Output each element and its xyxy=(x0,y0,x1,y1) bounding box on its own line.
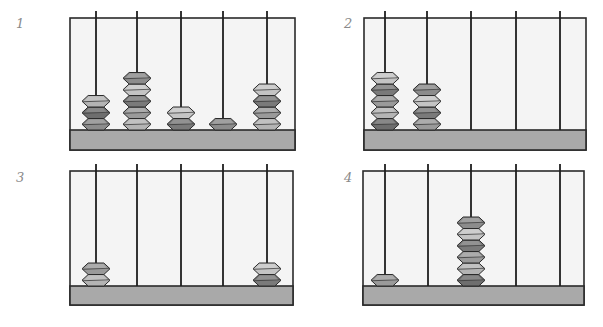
bead-highlight xyxy=(256,108,278,112)
abacus-base xyxy=(363,286,584,305)
bead-highlight xyxy=(374,120,396,124)
bead-highlight xyxy=(374,74,396,78)
bead-highlight xyxy=(256,97,278,101)
bead-highlight xyxy=(256,276,278,280)
bead-highlight xyxy=(170,108,192,112)
bead-highlight xyxy=(126,74,148,78)
bead-highlight xyxy=(85,120,107,124)
bead-highlight xyxy=(460,264,482,268)
bead-highlight xyxy=(460,218,482,222)
bead-highlight xyxy=(256,120,278,124)
abacus-2 xyxy=(364,11,586,150)
bead-highlight xyxy=(126,120,148,124)
bead-highlight xyxy=(126,108,148,112)
bead-highlight xyxy=(126,97,148,101)
abacus-1 xyxy=(70,11,295,150)
bead-highlight xyxy=(85,264,107,268)
bead-highlight xyxy=(460,241,482,245)
bead-highlight xyxy=(256,264,278,268)
bead-highlight xyxy=(170,120,192,124)
bead-highlight xyxy=(416,120,438,124)
abacus-3 xyxy=(70,164,293,305)
bead-highlight xyxy=(212,120,234,124)
bead-highlight xyxy=(85,276,107,280)
bead-highlight xyxy=(416,108,438,112)
bead-highlight xyxy=(460,253,482,257)
bead-highlight xyxy=(416,97,438,101)
bead-highlight xyxy=(374,85,396,89)
abacus-base xyxy=(364,130,586,150)
abacus-base xyxy=(70,286,293,305)
bead-highlight xyxy=(374,276,396,280)
abacus-base xyxy=(70,130,295,150)
bead-highlight xyxy=(460,230,482,234)
bead-highlight xyxy=(374,108,396,112)
abacus-drawing xyxy=(0,0,603,327)
bead-highlight xyxy=(374,97,396,101)
bead-highlight xyxy=(126,85,148,89)
abacus-4 xyxy=(363,164,584,305)
bead-highlight xyxy=(85,108,107,112)
bead-highlight xyxy=(460,276,482,280)
bead-highlight xyxy=(416,85,438,89)
bead-highlight xyxy=(85,97,107,101)
bead-highlight xyxy=(256,85,278,89)
